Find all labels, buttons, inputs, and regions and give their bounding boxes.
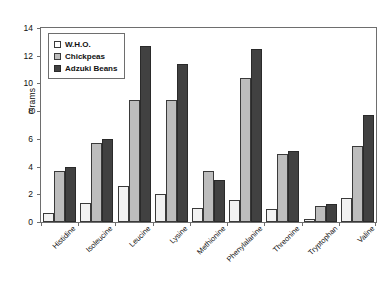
- bar: [140, 46, 151, 222]
- x-axis-labels: HistidineIsoleucineLeucineLysineMethioni…: [40, 224, 377, 284]
- legend-swatch-adzuki-icon: [54, 65, 61, 72]
- y-tick-label: 4: [13, 162, 33, 172]
- legend-item: Chickpeas: [54, 50, 117, 62]
- legend-swatch-chickpeas-icon: [54, 53, 61, 60]
- x-tick-label: Lysine: [168, 224, 190, 246]
- bar: [240, 78, 251, 222]
- x-tick-label: Tryptophan: [306, 224, 339, 257]
- bar-group: [227, 28, 264, 222]
- bar: [304, 219, 315, 222]
- x-tick-label: Leucine: [127, 224, 152, 249]
- x-tick-label: Threonine: [271, 224, 301, 254]
- bar: [192, 208, 203, 222]
- y-tick-label: 2: [13, 189, 33, 199]
- bar: [203, 171, 214, 222]
- bar-group: [339, 28, 376, 222]
- legend-swatch-who-icon: [54, 41, 61, 48]
- y-tick-label: 12: [13, 51, 33, 61]
- y-tick-label: 10: [13, 78, 33, 88]
- bar: [363, 115, 374, 222]
- bar-chart: Grams 02468101214 HistidineIsoleucineLeu…: [0, 0, 392, 285]
- bar: [166, 100, 177, 222]
- legend-item: W.H.O.: [54, 38, 117, 50]
- bar: [288, 151, 299, 222]
- bar: [129, 100, 140, 222]
- bar-group: [302, 28, 339, 222]
- y-tick-label: 14: [13, 23, 33, 33]
- bar: [277, 154, 288, 222]
- x-tick-label: Valine: [356, 224, 377, 245]
- legend-label-adzuki: Adzuki Beans: [65, 64, 117, 73]
- x-tick-label: Methionine: [195, 224, 227, 256]
- bar: [315, 206, 326, 222]
- bar: [102, 139, 113, 222]
- legend-label-chickpeas: Chickpeas: [65, 52, 105, 61]
- bar: [155, 194, 166, 222]
- x-tick-label: Phenylalanine: [225, 224, 265, 264]
- bar-group: [190, 28, 227, 222]
- y-tick-label: 6: [13, 134, 33, 144]
- x-tick-label: Histidine: [50, 224, 77, 251]
- x-tick-label: Isoleucine: [84, 224, 114, 254]
- y-tick-label: 8: [13, 106, 33, 116]
- bar: [43, 213, 54, 222]
- bar: [80, 203, 91, 222]
- bar: [341, 198, 352, 222]
- bar: [54, 171, 65, 222]
- legend: W.H.O. Chickpeas Adzuki Beans: [48, 33, 125, 79]
- bar-group: [153, 28, 190, 222]
- legend-label-who: W.H.O.: [65, 40, 91, 49]
- bar: [326, 204, 337, 222]
- bar: [91, 143, 102, 222]
- y-tick-label: 0: [13, 217, 33, 227]
- bar-group: [264, 28, 301, 222]
- bar: [214, 180, 225, 222]
- bar: [251, 49, 262, 222]
- bar: [352, 146, 363, 222]
- bar: [229, 200, 240, 222]
- legend-item: Adzuki Beans: [54, 62, 117, 74]
- bar: [266, 209, 277, 222]
- bar: [177, 64, 188, 222]
- bar: [65, 167, 76, 222]
- bar: [118, 186, 129, 222]
